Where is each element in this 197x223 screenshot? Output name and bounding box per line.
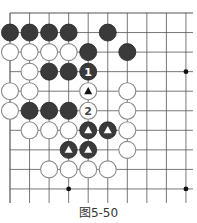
white-stone [21,44,38,61]
move-number: 1 [84,66,92,79]
black-stone [41,24,58,41]
black-stone [60,102,77,119]
white-stone [2,44,19,61]
black-stone [21,24,38,41]
white-stone [21,122,38,139]
white-stone: 2 [80,102,97,119]
black-stone [99,24,116,41]
white-stone [60,122,77,139]
black-stone [2,24,19,41]
black-stone [99,122,116,139]
black-stone [80,122,97,139]
black-stone [60,63,77,80]
black-stone: 1 [80,63,97,80]
white-stone [60,44,77,61]
white-stone [41,122,58,139]
black-stone [60,24,77,41]
black-stone [41,102,58,119]
star-point [184,69,189,74]
white-stone [21,83,38,100]
black-stone [21,102,38,119]
go-board: 12 [0,0,197,205]
white-stone [119,122,136,139]
black-stone [80,44,97,61]
white-stone [119,83,136,100]
figure-caption: 图5-50 [0,203,197,220]
white-stone [2,102,19,119]
white-stone [119,141,136,158]
star-point [66,187,71,192]
black-stone [80,141,97,158]
black-stone [119,44,136,61]
white-stone [119,102,136,119]
white-stone [60,161,77,178]
white-stone [80,83,97,100]
white-stone [21,63,38,80]
white-stone [41,44,58,61]
white-stone [80,161,97,178]
black-stone [60,141,77,158]
move-number: 2 [84,105,92,118]
white-stone [41,161,58,178]
star-point [184,187,189,192]
white-stone [2,83,19,100]
white-stone [99,161,116,178]
black-stone [41,63,58,80]
